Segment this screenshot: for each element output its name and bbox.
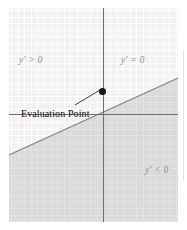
evaluation-point-label: Evaluation Point [21, 108, 90, 119]
label-region-positive: y′ > 0 [19, 55, 42, 65]
label-region-positive-text: y′ > 0 [19, 55, 42, 65]
label-region-zero: y′ = 0 [121, 55, 144, 65]
plot-area: y′ > 0 y′ = 0 y′ < 0 Evaluation Point [9, 8, 178, 222]
slope-sign-diagram: y′ > 0 y′ = 0 y′ < 0 Evaluation Point [0, 0, 187, 230]
label-region-negative: y′ < 0 [145, 165, 168, 175]
evaluation-point-label-text: Evaluation Point [21, 108, 90, 119]
right-edge-rule [183, 50, 184, 180]
y-axis [103, 8, 104, 222]
label-region-negative-text: y′ < 0 [145, 165, 168, 175]
label-region-zero-text: y′ = 0 [121, 55, 144, 65]
evaluation-point-marker [99, 88, 106, 95]
